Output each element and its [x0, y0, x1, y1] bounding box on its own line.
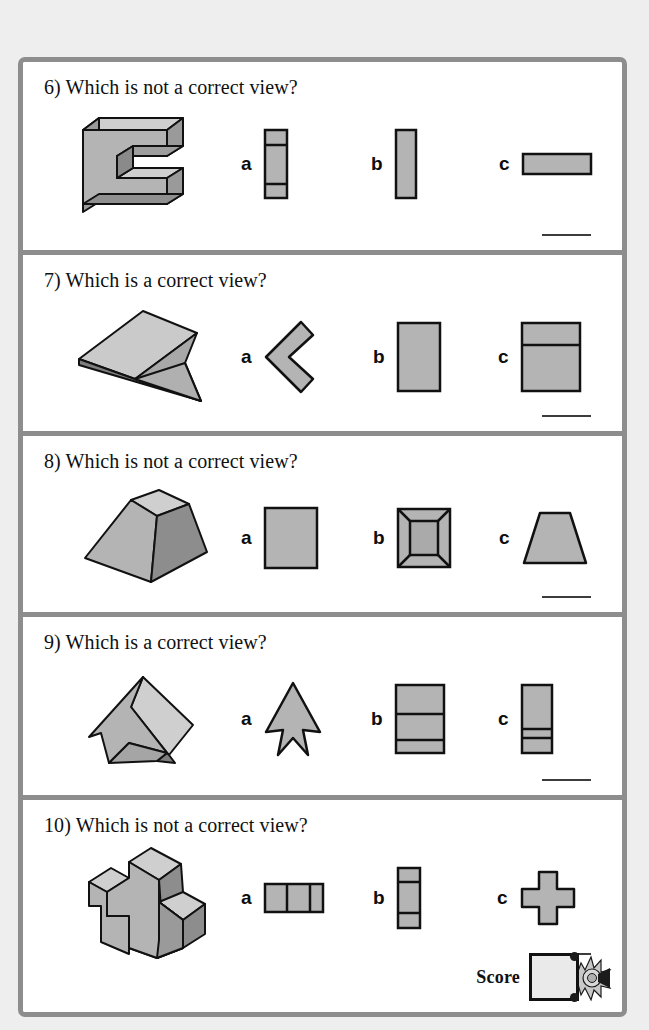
option-figure-vertical-bar-two-horizontal-lines: [396, 866, 422, 930]
options-row-6: a b c: [241, 108, 613, 220]
option-figure-horizontal-bar: [521, 152, 593, 176]
option-letter: c: [497, 887, 508, 909]
option-9-b[interactable]: b: [371, 663, 446, 775]
option-letter: a: [241, 708, 252, 730]
option-8-a[interactable]: a: [241, 482, 319, 594]
score-input-box[interactable]: [529, 953, 579, 1001]
option-10-a[interactable]: a: [241, 842, 325, 954]
options-row-7: a b c: [241, 301, 613, 413]
question-text-10: 10) Which is not a correct view?: [44, 814, 308, 837]
option-6-c[interactable]: c: [499, 108, 593, 220]
option-letter: a: [241, 153, 252, 175]
answer-line-9[interactable]: [542, 779, 591, 781]
option-letter: a: [241, 887, 252, 909]
answer-line-8[interactable]: [542, 596, 591, 598]
option-figure-rectangle-one-horizontal-line: [520, 321, 582, 393]
option-letter: b: [371, 153, 383, 175]
option-letter: b: [373, 527, 385, 549]
solid-figure-folded-kite-plate: [71, 663, 221, 773]
option-letter: b: [373, 887, 385, 909]
score-label: Score: [476, 967, 520, 988]
question-panel-8: 8) Which is not a correct view? a b: [23, 436, 622, 617]
option-figure-trapezoid: [521, 510, 589, 566]
answer-line-6[interactable]: [542, 234, 591, 236]
option-figure-narrow-rectangle-two-lines: [520, 683, 554, 755]
solid-figure-square-frustum: [71, 482, 221, 592]
question-text-6: 6) Which is not a correct view?: [44, 76, 298, 99]
option-letter: a: [241, 346, 252, 368]
solid-figure-e-shaped-block: [71, 108, 221, 218]
option-9-a[interactable]: a: [241, 663, 323, 775]
option-figure-plain-vertical-bar: [394, 128, 418, 200]
question-text-8: 8) Which is not a correct view?: [44, 450, 298, 473]
option-8-b[interactable]: b: [373, 482, 452, 594]
option-6-a[interactable]: a: [241, 108, 289, 220]
solid-figure-folded-plate: [71, 301, 221, 411]
option-figure-horizontal-bar-two-vertical-lines: [263, 882, 325, 914]
worksheet-page: 6) Which is not a correct view? a: [18, 57, 627, 1017]
question-text-7: 7) Which is a correct view?: [44, 269, 267, 292]
option-10-b[interactable]: b: [373, 842, 422, 954]
option-7-c[interactable]: c: [498, 301, 582, 413]
option-letter: b: [371, 708, 383, 730]
answer-line-7[interactable]: [542, 415, 591, 417]
option-figure-arrow-dart: [263, 680, 323, 758]
option-7-b[interactable]: b: [373, 301, 442, 413]
option-letter: a: [241, 527, 252, 549]
option-figure-rectangle-two-horizontal-lines: [394, 683, 446, 755]
question-panel-7: 7) Which is a correct view? a b: [23, 255, 622, 436]
question-panel-10: 10) Which is not a correct view? a: [23, 800, 622, 1012]
option-7-a[interactable]: a: [241, 301, 315, 413]
score-area: Score: [476, 948, 612, 1006]
option-10-c[interactable]: c: [497, 842, 577, 954]
option-9-c[interactable]: c: [498, 663, 554, 775]
options-row-10: a b: [241, 842, 613, 954]
option-6-b[interactable]: b: [371, 108, 418, 220]
solid-figure-plus-shaped-block: [71, 842, 221, 952]
question-text-9: 9) Which is a correct view?: [44, 631, 267, 654]
option-letter: c: [498, 346, 509, 368]
option-figure-nested-square-top-view: [396, 507, 452, 569]
option-figure-vertical-bar-two-divider-lines: [263, 128, 289, 200]
option-letter: c: [498, 708, 509, 730]
options-row-8: a b: [241, 482, 613, 594]
option-8-c[interactable]: c: [499, 482, 589, 594]
option-figure-plain-square: [263, 506, 319, 570]
option-letter: c: [499, 527, 510, 549]
option-figure-left-chevron: [263, 318, 315, 396]
question-panel-6: 6) Which is not a correct view? a: [23, 62, 622, 255]
option-letter: c: [499, 153, 510, 175]
option-figure-plus-cross: [519, 869, 577, 927]
options-row-9: a b c: [241, 663, 613, 775]
option-figure-plain-rectangle: [396, 321, 442, 393]
option-letter: b: [373, 346, 385, 368]
question-panel-9: 9) Which is a correct view? a b: [23, 617, 622, 800]
